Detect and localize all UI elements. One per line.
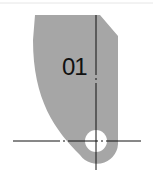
part-label: 01: [62, 53, 87, 81]
drawing-canvas: 01: [0, 0, 153, 176]
part-drawing: [0, 0, 153, 176]
